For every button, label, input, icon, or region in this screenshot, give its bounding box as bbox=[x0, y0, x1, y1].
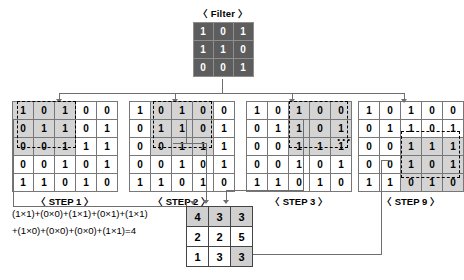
step-row: 11010 bbox=[130, 174, 235, 192]
step-matrix-1: 1010001101001110010111010 bbox=[12, 101, 118, 192]
step2-cell-0-2: 1 bbox=[172, 102, 193, 120]
step2-cell-2-2: 1 bbox=[172, 138, 193, 156]
output-cell-2-1: 3 bbox=[209, 247, 231, 267]
step-row: 00111 bbox=[247, 138, 352, 156]
step3-cell-3-1: 0 bbox=[268, 156, 289, 174]
filter-cell-0-2: 1 bbox=[233, 23, 253, 41]
step2-cell-0-4: 0 bbox=[214, 102, 235, 120]
step1-cell-1-4: 1 bbox=[97, 120, 118, 138]
output-cell-1-0: 2 bbox=[187, 227, 209, 247]
step-row: 00101 bbox=[130, 156, 235, 174]
output-row: 225 bbox=[187, 227, 253, 247]
filter-bus-line bbox=[59, 93, 405, 94]
step2-out-line-h bbox=[173, 143, 187, 144]
output-block: 433225133 bbox=[186, 206, 253, 267]
step2-cell-3-3: 0 bbox=[193, 156, 214, 174]
step4-cell-2-0: 0 bbox=[359, 138, 380, 156]
convolution-formula: (1×1)+(0×0)+(1×1)+(0×1)+(1×1) +(1×0)+(0×… bbox=[12, 205, 192, 239]
step-row: 01101 bbox=[130, 120, 235, 138]
step1-out-line-h bbox=[13, 119, 23, 120]
step-block-2: 1010001101001110010111010 〈 STEP 2 〉 bbox=[129, 101, 235, 208]
output-cell-0-1: 3 bbox=[209, 207, 231, 227]
step4-cell-2-3: 1 bbox=[422, 138, 443, 156]
step4-cell-1-2: 1 bbox=[401, 120, 422, 138]
step-row: 00101 bbox=[13, 156, 118, 174]
step2-cell-1-0: 0 bbox=[130, 120, 151, 138]
filter-cell-0-1: 0 bbox=[213, 23, 233, 41]
step1-cell-2-3: 1 bbox=[76, 138, 97, 156]
step2-cell-2-3: 1 bbox=[193, 138, 214, 156]
step-matrix-2: 1010001101001110010111010 bbox=[129, 101, 235, 192]
filter-stem-line bbox=[222, 79, 223, 93]
step2-cell-4-0: 1 bbox=[130, 174, 151, 192]
step-row: 10100 bbox=[13, 102, 118, 120]
step4-cell-4-3: 1 bbox=[422, 174, 443, 192]
step4-cell-1-4: 1 bbox=[443, 120, 464, 138]
filter-row: 001 bbox=[193, 59, 253, 77]
step1-cell-2-0: 0 bbox=[13, 138, 34, 156]
step1-cell-2-1: 0 bbox=[34, 138, 55, 156]
step-block-9: 1010001101001110010111010 〈 STEP 9 〉 bbox=[358, 101, 464, 208]
filter-cell-1-0: 1 bbox=[193, 41, 213, 59]
step-row: 00101 bbox=[359, 156, 464, 174]
step2-cell-4-1: 1 bbox=[151, 174, 172, 192]
step3-cell-1-2: 1 bbox=[289, 120, 310, 138]
step4-cell-2-2: 1 bbox=[401, 138, 422, 156]
filter-title: 〈 Filter 〉 bbox=[186, 6, 260, 20]
step3-out-line-h bbox=[289, 119, 304, 120]
step-row: 00111 bbox=[359, 138, 464, 156]
step2-cell-1-2: 1 bbox=[172, 120, 193, 138]
filter-cell-2-2: 1 bbox=[233, 59, 253, 77]
step3-cell-4-4: 0 bbox=[331, 174, 352, 192]
output-matrix: 433225133 bbox=[186, 206, 253, 267]
step4-cell-3-4: 1 bbox=[443, 156, 464, 174]
step-label-3: 〈 STEP 3 〉 bbox=[246, 194, 352, 208]
filter-cell-2-0: 0 bbox=[193, 59, 213, 77]
step1-cell-0-4: 0 bbox=[97, 102, 118, 120]
step4-cell-3-0: 0 bbox=[359, 156, 380, 174]
filter-row: 110 bbox=[193, 41, 253, 59]
step2-cell-0-0: 1 bbox=[130, 102, 151, 120]
step2-cell-1-1: 1 bbox=[151, 120, 172, 138]
step2-cell-3-0: 0 bbox=[130, 156, 151, 174]
step3-cell-2-2: 1 bbox=[289, 138, 310, 156]
step3-cell-4-1: 1 bbox=[268, 174, 289, 192]
step4-cell-1-1: 1 bbox=[380, 120, 401, 138]
step1-cell-1-2: 1 bbox=[55, 120, 76, 138]
step1-cell-2-2: 1 bbox=[55, 138, 76, 156]
output-cell-0-2: 3 bbox=[231, 207, 253, 227]
step3-out-line-v bbox=[303, 119, 304, 191]
step1-cell-3-4: 1 bbox=[97, 156, 118, 174]
step3-cell-4-2: 0 bbox=[289, 174, 310, 192]
step3-cell-3-3: 0 bbox=[310, 156, 331, 174]
step3-cell-0-4: 0 bbox=[331, 102, 352, 120]
step3-cell-3-4: 1 bbox=[331, 156, 352, 174]
step3-cell-0-0: 1 bbox=[247, 102, 268, 120]
step2-cell-4-2: 0 bbox=[172, 174, 193, 192]
step2-out-line-v bbox=[186, 119, 187, 144]
output-cell-1-1: 2 bbox=[209, 227, 231, 247]
step1-cell-0-3: 0 bbox=[76, 102, 97, 120]
step3-cell-2-3: 1 bbox=[310, 138, 331, 156]
step2-cell-0-3: 0 bbox=[193, 102, 214, 120]
step3-cell-1-1: 1 bbox=[268, 120, 289, 138]
step1-cell-1-3: 0 bbox=[76, 120, 97, 138]
formula-line-2: +(1×0)+(0×0)+(0×0)+(1×1)=4 bbox=[12, 222, 192, 239]
filter-cell-2-1: 0 bbox=[213, 59, 233, 77]
step-row: 00111 bbox=[130, 138, 235, 156]
step-row: 00111 bbox=[13, 138, 118, 156]
output-row: 133 bbox=[187, 247, 253, 267]
step2-cell-4-4: 0 bbox=[214, 174, 235, 192]
step9-out-line-h bbox=[381, 160, 391, 161]
filter-matrix: 101110001 bbox=[193, 22, 254, 77]
step3-cell-2-1: 0 bbox=[268, 138, 289, 156]
step-row: 01101 bbox=[247, 120, 352, 138]
step4-cell-4-0: 1 bbox=[359, 174, 380, 192]
step-row: 11010 bbox=[13, 174, 118, 192]
step2-cell-3-1: 0 bbox=[151, 156, 172, 174]
output-cell-2-2: 3 bbox=[231, 247, 253, 267]
step1-out-line-v bbox=[13, 119, 14, 207]
step3-cell-0-1: 0 bbox=[268, 102, 289, 120]
step3-cell-1-3: 0 bbox=[310, 120, 331, 138]
